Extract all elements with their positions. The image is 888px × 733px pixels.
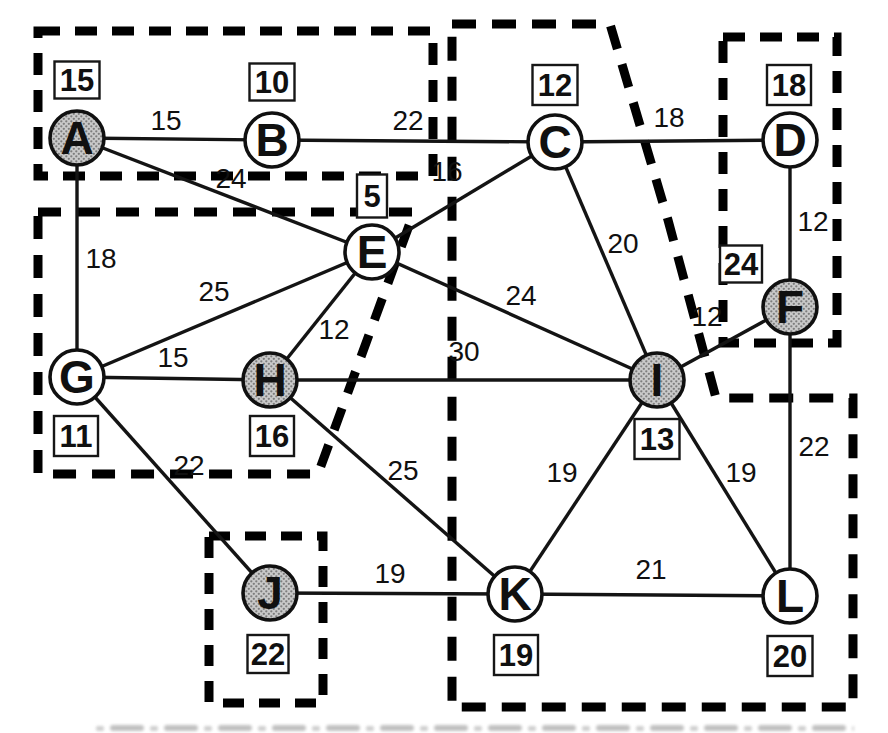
edge-weight-I-L: 19 — [725, 457, 756, 488]
edge-weight-J-K: 19 — [374, 558, 405, 589]
edge-E-I — [372, 252, 657, 380]
edge-C-E — [372, 142, 555, 252]
node-value-J: 22 — [251, 637, 285, 672]
edge-weight-I-K: 19 — [546, 457, 577, 488]
node-value-B: 10 — [255, 65, 289, 100]
node-letter-J: J — [257, 567, 283, 619]
graph-figure: 1522182416182515122420301212222519191921… — [0, 0, 888, 733]
node-value-C: 12 — [538, 68, 572, 103]
edge-G-J — [77, 377, 270, 593]
edge-weight-A-E: 24 — [215, 163, 246, 194]
edge-C-I — [555, 142, 657, 380]
edge-weight-I-F: 12 — [691, 301, 722, 332]
edge-A-E — [77, 138, 372, 252]
edge-C-D — [555, 140, 790, 142]
edge-weight-C-I: 20 — [607, 228, 638, 259]
node-value-K: 19 — [499, 638, 533, 673]
edge-weight-G-H: 15 — [157, 342, 188, 373]
node-value-I: 13 — [640, 422, 674, 457]
edge-weight-G-J: 22 — [173, 450, 204, 481]
node-letter-E: E — [357, 226, 388, 278]
edge-weight-F-L: 22 — [798, 431, 829, 462]
graph-canvas: 1522182416182515122420301212222519191921… — [0, 0, 888, 733]
edge-weight-B-C: 22 — [392, 105, 423, 136]
node-letter-L: L — [776, 570, 804, 622]
edge-K-L — [515, 594, 790, 596]
edge-weight-E-I: 24 — [505, 280, 536, 311]
node-letter-D: D — [773, 114, 806, 166]
node-letter-B: B — [255, 114, 288, 166]
edge-weight-H-K: 25 — [387, 455, 418, 486]
node-value-H: 16 — [255, 419, 289, 454]
edge-weight-D-F: 12 — [797, 206, 828, 237]
node-value-A: 15 — [60, 63, 94, 98]
node-value-E: 5 — [363, 179, 380, 214]
edge-weight-C-E: 16 — [431, 156, 462, 187]
edge-weight-E-G: 25 — [198, 276, 229, 307]
edge-I-L — [657, 380, 790, 596]
node-letter-C: C — [538, 116, 571, 168]
node-letter-F: F — [776, 281, 804, 333]
node-letter-H: H — [253, 354, 286, 406]
edge-weight-A-B: 15 — [150, 105, 181, 136]
edge-weight-C-D: 18 — [653, 102, 684, 133]
edge-A-B — [77, 138, 272, 140]
edge-weight-K-L: 21 — [635, 554, 666, 585]
node-value-L: 20 — [773, 639, 807, 674]
node-letter-A: A — [60, 112, 93, 164]
node-letter-K: K — [498, 568, 531, 620]
node-value-F: 24 — [724, 247, 759, 282]
edge-J-K — [270, 593, 515, 594]
edge-G-H — [77, 377, 270, 380]
edge-weight-A-G: 18 — [85, 243, 116, 274]
edge-B-C — [272, 140, 555, 142]
edge-weight-E-H: 12 — [318, 314, 349, 345]
caption-smudge-cutoff-text — [92, 721, 854, 733]
node-value-D: 18 — [772, 68, 806, 103]
edge-weight-H-I: 30 — [448, 336, 479, 367]
node-letter-G: G — [59, 351, 95, 403]
node-letter-I: I — [651, 354, 664, 406]
node-value-G: 11 — [60, 419, 93, 454]
